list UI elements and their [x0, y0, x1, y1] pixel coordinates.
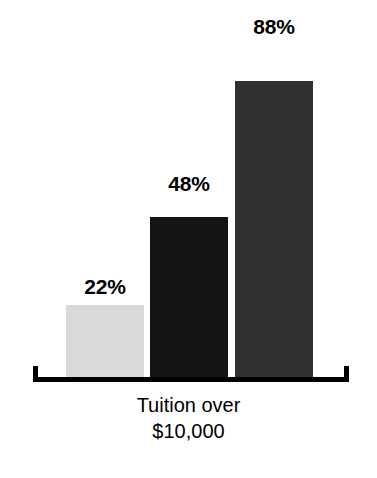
axis-baseline-rule	[33, 377, 349, 382]
x-axis-caption: Tuition over $10,000	[0, 392, 377, 444]
bar-2-value-label: 48%	[150, 173, 228, 194]
x-axis-caption-line-1: Tuition over	[0, 392, 377, 418]
axis-baseline-bracket	[33, 366, 349, 382]
bar-3-value-label: 88%	[235, 16, 313, 37]
x-axis-caption-line-2: $10,000	[0, 418, 377, 444]
axis-tick-right	[344, 366, 349, 382]
plot-area: 22% 48% 88%	[0, 0, 377, 382]
bar-3	[235, 81, 313, 380]
bar-chart: 22% 48% 88% Tuition over $10,000	[0, 0, 377, 478]
bar-1-value-label: 22%	[66, 276, 144, 297]
bar-2	[150, 217, 228, 380]
